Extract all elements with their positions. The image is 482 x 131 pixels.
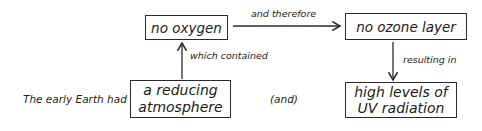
edge-label-and-therefore: and therefore [251, 8, 316, 19]
node-high-uv-line2: UV radiation [358, 100, 445, 116]
node-reducing-atmosphere-line2: atmosphere [138, 99, 222, 116]
conjunction-text: (and) [270, 93, 298, 105]
edge-label-which-contained: which contained [190, 50, 268, 61]
node-no-oxygen-label: no oxygen [151, 20, 222, 36]
node-high-uv-line1: high levels of [354, 84, 448, 100]
node-high-uv-radiation: high levels of UV radiation [345, 82, 457, 118]
node-reducing-atmosphere-line1: a reducing [143, 82, 218, 99]
node-reducing-atmosphere: a reducing atmosphere [130, 80, 231, 118]
node-no-ozone-layer-label: no ozone layer [356, 19, 456, 35]
node-no-oxygen: no oxygen [145, 15, 228, 40]
intro-text: The early Earth had [23, 93, 127, 105]
node-no-ozone-layer: no ozone layer [345, 13, 467, 40]
edge-label-resulting-in: resulting in [403, 54, 456, 65]
